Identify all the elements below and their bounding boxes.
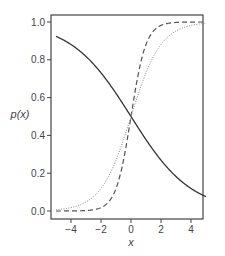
y-axis: 0.00.20.40.60.81.0	[31, 17, 51, 217]
y-tick-label: 1.0	[31, 17, 45, 28]
x-tick-label: −2	[95, 224, 107, 235]
series-solid-line	[56, 36, 206, 196]
logistic-curves-chart: 0.00.20.40.60.81.0 −4−2024 x p(x)	[0, 0, 225, 256]
x-axis: −4−2024	[65, 219, 194, 235]
y-tick-label: 0.2	[31, 168, 45, 179]
y-axis-label: p(x)	[10, 108, 30, 120]
plot-frame	[51, 15, 203, 219]
x-axis-label: x	[127, 236, 134, 248]
x-tick-label: 0	[128, 224, 134, 235]
series-group	[56, 22, 206, 211]
x-tick-label: −4	[65, 224, 77, 235]
y-tick-label: 0.4	[31, 130, 45, 141]
y-tick-label: 0.0	[31, 206, 45, 217]
x-tick-label: 2	[158, 224, 164, 235]
y-tick-label: 0.6	[31, 92, 45, 103]
y-tick-label: 0.8	[31, 54, 45, 65]
x-tick-label: 4	[188, 224, 194, 235]
